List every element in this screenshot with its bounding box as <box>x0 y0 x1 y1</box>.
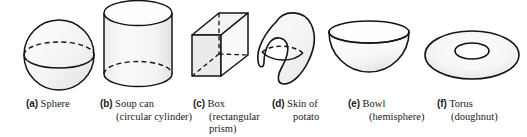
torus-shape <box>425 31 519 79</box>
shape-row <box>0 0 527 100</box>
caption-e-tag: (e) <box>348 98 360 109</box>
caption-e-sub: (hemisphere) <box>369 111 424 124</box>
caption-c-tag: (c) <box>193 98 205 109</box>
caption-f-name: Torus <box>449 98 473 109</box>
caption-d-name: Skin of <box>287 98 318 109</box>
sphere-shape <box>24 20 94 90</box>
caption-b-name: Soup can <box>115 98 154 109</box>
caption-a-name: Sphere <box>41 98 70 109</box>
caption-f-sub: (doughnut) <box>451 111 498 124</box>
caption-e-name: Bowl <box>363 98 386 109</box>
caption-a: (a) Sphere <box>26 98 70 111</box>
caption-c-name: Box <box>208 98 226 109</box>
caption-b: (b) Soup can (circular cylinder) <box>100 98 192 123</box>
caption-b-tag: (b) <box>100 98 112 109</box>
caption-f: (f) Torus (doughnut) <box>437 98 498 123</box>
caption-c: (c) Box (rectangular prism) <box>193 98 260 136</box>
caption-b-sub: (circular cylinder) <box>116 111 192 124</box>
caption-f-tag: (f) <box>437 98 447 109</box>
surfaces-figure: (a) Sphere (b) Soup can (circular cylind… <box>0 0 527 137</box>
bowl-shape <box>329 21 409 72</box>
caption-e: (e) Bowl (hemisphere) <box>348 98 424 123</box>
cylinder-shape <box>104 1 172 87</box>
caption-row: (a) Sphere (b) Soup can (circular cylind… <box>0 96 527 137</box>
caption-a-tag: (a) <box>26 98 38 109</box>
caption-c-sub-line2: prism) <box>209 123 260 136</box>
caption-c-sub-line1: (rectangular <box>209 111 260 124</box>
caption-d-tag: (d) <box>272 98 284 109</box>
box-shape <box>192 13 248 76</box>
caption-d: (d) Skin of potato <box>272 98 319 123</box>
caption-d-sub: potato <box>293 111 319 124</box>
potato-shape <box>258 13 315 84</box>
